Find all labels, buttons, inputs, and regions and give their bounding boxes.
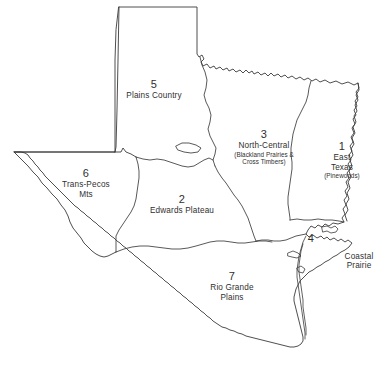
region-subtitle-blackland-prairies: (Blackland Prairies & (212, 151, 316, 159)
region-number-2: 2 (133, 193, 231, 205)
region-number-1: 1 (309, 140, 375, 152)
region-name-north-central: North-Central (212, 141, 316, 150)
region-name-coastal: Coastal (330, 252, 388, 261)
galveston-bay-island (322, 226, 338, 233)
llano-uplift-outline (176, 143, 201, 153)
region-label-east-texas[interactable]: 1 East Texas (Pinewoods) (309, 140, 375, 179)
divider-northcentral-coastal (256, 234, 306, 241)
region-name-prairie: Prairie (330, 261, 388, 270)
region-number-4: 4 (300, 232, 322, 244)
region-name-plains: Plains (192, 293, 272, 302)
region-label-trans-pecos[interactable]: 6 Trans-Pecos Mts (48, 167, 124, 199)
region-label-coastal-prairie[interactable]: Coastal Prairie (330, 252, 388, 270)
region-label-coastal-prairie-number[interactable]: 4 (300, 232, 322, 245)
region-label-north-central[interactable]: 3 North-Central (Blackland Prairies & Cr… (212, 128, 316, 166)
figure-caption (18, 366, 370, 375)
region-name-trans-pecos: Trans-Pecos (48, 180, 124, 189)
region-number-7: 7 (192, 270, 272, 282)
region-name-mts: Mts (48, 190, 124, 199)
region-name-rio-grande: Rio Grande (192, 283, 272, 292)
divider-plains-edwards (136, 157, 213, 167)
matagorda-island (288, 251, 301, 258)
region-subtitle-cross-timbers: Cross Timbers) (212, 158, 316, 166)
corpus-bay-island (297, 266, 305, 273)
region-name-plains-country: Plains Country (106, 91, 202, 100)
region-name-east: East (309, 153, 375, 162)
divider-easttexas-coastal (290, 219, 344, 222)
region-number-6: 6 (48, 167, 124, 179)
region-name-edwards-plateau: Edwards Plateau (133, 206, 231, 215)
texas-regions-figure: 5 Plains Country 3 North-Central (Blackl… (0, 0, 388, 375)
region-number-5: 5 (106, 78, 202, 90)
region-label-edwards-plateau[interactable]: 2 Edwards Plateau (133, 193, 231, 216)
region-name-texas: Texas (309, 163, 375, 172)
panhandle-southeast-notch (115, 148, 136, 157)
padre-island-inner (299, 244, 306, 335)
region-subtitle-pinewoods: (Pinewoods) (309, 172, 375, 180)
divider-edwards-riogrande (116, 241, 272, 252)
region-label-rio-grande-plains[interactable]: 7 Rio Grande Plains (192, 270, 272, 302)
region-number-3: 3 (212, 128, 316, 140)
region-label-plains-country[interactable]: 5 Plains Country (106, 78, 202, 101)
